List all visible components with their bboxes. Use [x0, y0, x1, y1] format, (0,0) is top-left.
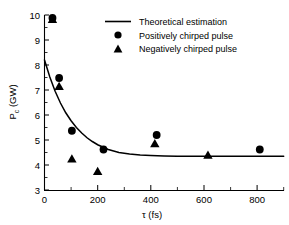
- x-axis-ticks: [45, 185, 284, 191]
- chart-figure: 10 9 8 7 6 5 4 3 0 200 400 600: [0, 0, 289, 225]
- y-axis-ticks: [45, 15, 50, 190]
- data-point-negative-chirp: [203, 150, 212, 158]
- x-axis-title: τ (fs): [142, 209, 162, 220]
- y-tick-label: 4: [35, 160, 40, 171]
- x-tick-label: 200: [90, 194, 106, 205]
- data-point-positive-chirp: [153, 131, 161, 139]
- y-axis-title-unit: (GW): [7, 84, 18, 109]
- x-tick-label: 600: [196, 194, 212, 205]
- series-theoretical-estimation: [45, 60, 284, 156]
- legend-marker-circle-icon: [114, 31, 121, 38]
- data-point-positive-chirp: [256, 146, 264, 154]
- data-point-positive-chirp: [100, 146, 108, 154]
- chart-legend: Theoretical estimation Positively chirpe…: [105, 17, 237, 54]
- y-tick-label: 6: [35, 110, 40, 121]
- data-point-negative-chirp: [93, 167, 102, 175]
- legend-label-theoretical: Theoretical estimation: [139, 17, 227, 27]
- y-tick-label: 10: [29, 10, 40, 21]
- y-tick-label: 9: [35, 35, 40, 46]
- data-point-positive-chirp: [55, 74, 63, 82]
- y-axis-tick-labels: 10 9 8 7 6 5 4 3: [29, 10, 40, 196]
- x-tick-label: 800: [249, 194, 265, 205]
- chart-canvas: 10 9 8 7 6 5 4 3 0 200 400 600: [0, 0, 289, 225]
- y-tick-label: 8: [35, 60, 40, 71]
- legend-label-negative: Negatively chirped pulse: [139, 44, 237, 54]
- y-tick-label: 5: [35, 135, 40, 146]
- x-axis-tick-labels: 0 200 400 600 800: [42, 194, 265, 205]
- legend-marker-triangle-icon: [114, 45, 123, 53]
- y-tick-label: 3: [35, 185, 40, 196]
- legend-label-positive: Positively chirped pulse: [139, 31, 233, 41]
- y-axis-title: Pc (GW): [7, 84, 20, 119]
- x-tick-label: 400: [143, 194, 159, 205]
- data-point-negative-chirp: [67, 154, 76, 162]
- data-point-negative-chirp: [54, 82, 63, 90]
- data-point-positive-chirp: [68, 127, 76, 135]
- y-tick-label: 7: [35, 85, 40, 96]
- theory-curve-path: [45, 60, 284, 156]
- svg-text:Pc (GW): Pc (GW): [7, 84, 20, 119]
- axes-group: [44, 15, 284, 191]
- x-tick-label: 0: [42, 194, 47, 205]
- data-point-negative-chirp: [150, 139, 159, 147]
